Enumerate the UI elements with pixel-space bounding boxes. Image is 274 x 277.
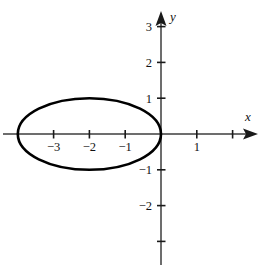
x-tick-label-neg2: −2 <box>83 141 96 154</box>
y-tick-label-neg1: −1 <box>139 164 152 177</box>
x-tick-label-neg1: −1 <box>119 141 132 154</box>
y-tick-label-neg2: −2 <box>139 200 152 213</box>
y-tick-label-2: 2 <box>146 57 152 70</box>
y-tick-label-1: 1 <box>146 93 152 106</box>
y-axis-label: y <box>170 10 176 23</box>
x-tick-label-neg3: −3 <box>47 141 60 154</box>
coordinate-plane-svg <box>0 0 274 277</box>
y-tick-label-3: 3 <box>146 21 152 34</box>
x-tick-label-1: 1 <box>194 141 200 154</box>
x-axis-label: x <box>245 110 251 123</box>
graph-figure: 3 2 1 −1 −2 −3 −2 −1 1 x y <box>0 0 274 277</box>
